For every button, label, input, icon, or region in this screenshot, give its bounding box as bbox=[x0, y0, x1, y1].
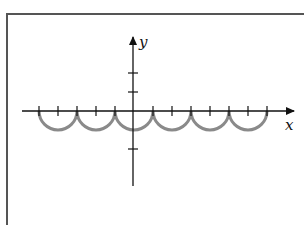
function-graph: y x bbox=[0, 0, 304, 225]
y-axis-label: y bbox=[138, 33, 148, 51]
x-axis-label: x bbox=[285, 116, 294, 134]
